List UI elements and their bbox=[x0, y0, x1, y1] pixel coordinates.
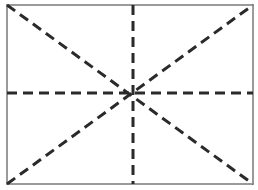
diagram-canvas bbox=[0, 0, 258, 190]
rectangle-diagonals-diagram bbox=[0, 0, 258, 190]
